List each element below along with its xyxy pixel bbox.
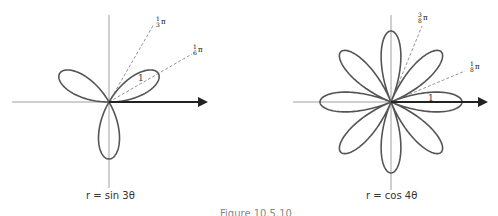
arrowhead-icon: [198, 97, 208, 107]
left-graph: 13π 16π 1: [12, 15, 208, 188]
ray-pi-over-6: [109, 54, 192, 102]
polar-rose-figure: 13π 16π 1 38π 18π 1: [0, 0, 498, 216]
ray-label-3pi-over-8: 38π: [418, 11, 428, 24]
ray-label-pi-over-8: 18π: [470, 60, 480, 73]
ray-label-pi-over-6: 16π: [193, 43, 203, 56]
right-equation-caption: r = cos 4θ: [366, 190, 417, 201]
right-graph: 38π 18π 1: [293, 11, 488, 190]
petal-length-label: 1: [138, 73, 144, 83]
ray-3pi-over-8: [391, 26, 422, 102]
figure-caption: Figure 10.5.10: [220, 208, 292, 216]
petal-length-label: 1: [428, 93, 434, 103]
ray-pi-over-3: [109, 24, 154, 102]
arrowhead-icon: [478, 97, 488, 107]
left-equation-caption: r = sin 3θ: [86, 190, 135, 201]
ray-label-pi-over-3: 13π: [156, 15, 166, 28]
